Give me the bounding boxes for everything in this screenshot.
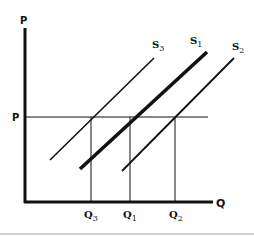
supply-curve-s1: [80, 52, 207, 169]
quantity-label-q3: Q3: [84, 209, 98, 223]
curve-label-s1: S1: [190, 35, 202, 49]
curve-label-s3: S3: [152, 39, 164, 53]
quantity-label-q2: Q2: [169, 209, 183, 223]
quantity-label-q1: Q1: [123, 209, 137, 223]
x-axis-label: Q: [216, 197, 225, 210]
curve-label-s2: S2: [232, 41, 244, 55]
supply-curve-s3: [50, 58, 154, 160]
price-level-label: P: [12, 112, 19, 123]
y-axis-label: P: [20, 15, 27, 26]
supply-shift-diagram: P Q P S3 S1 S2 Q3 Q1 Q2: [0, 0, 254, 236]
diagram-svg: P Q P S3 S1 S2 Q3 Q1 Q2: [0, 0, 254, 236]
